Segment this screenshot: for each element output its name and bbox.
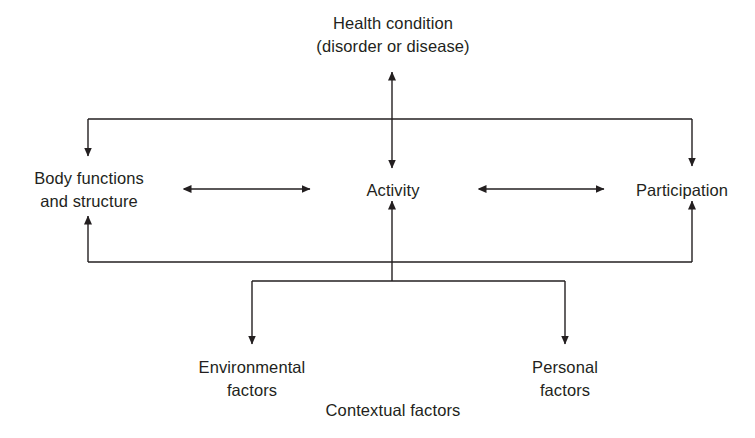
diagram-connectors-canvas (0, 0, 755, 438)
node-health-condition: Health condition (disorder or disease) (283, 12, 503, 58)
node-environmental-factors: Environmental factors (172, 356, 332, 402)
node-contextual-factors: Contextual factors (290, 399, 496, 421)
node-personal-factors: Personal factors (490, 356, 640, 402)
node-body-functions-and-structure: Body functions and structure (3, 167, 175, 213)
node-participation: Participation (612, 179, 752, 201)
icf-diagram: Health condition (disorder or disease) B… (0, 0, 755, 438)
node-activity: Activity (333, 179, 453, 201)
